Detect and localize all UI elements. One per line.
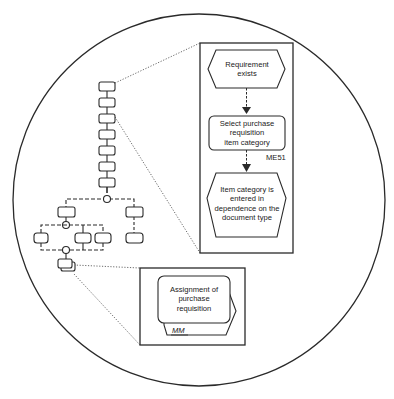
event2-line: document type [209, 213, 285, 222]
chain-node [99, 98, 115, 107]
transaction-code: ME51 [266, 153, 286, 162]
overview-chain [99, 82, 115, 193]
event2-label: Item category is entered in dependence o… [209, 185, 285, 223]
chain-node [99, 178, 115, 187]
process-line: purchase [160, 294, 228, 303]
function-line: Select purchase [209, 119, 285, 128]
event1-line: Requirement [216, 60, 278, 69]
process-label: Assignment of purchase requisition [160, 285, 228, 313]
diagram-canvas [0, 0, 394, 399]
function-label: Select purchase requisition item categor… [209, 119, 285, 147]
module-label: MM [172, 326, 185, 335]
event1-label: Requirement exists [216, 60, 278, 79]
chain-node [99, 146, 115, 155]
event2-line: entered in [209, 194, 285, 203]
overview-branches [34, 187, 143, 271]
event2-line: Item category is [209, 185, 285, 194]
event2-line: dependence on the [209, 204, 285, 213]
chain-node [99, 130, 115, 139]
process-line: Assignment of [160, 285, 228, 294]
chain-node [99, 82, 115, 91]
process-line: requisition [160, 304, 228, 313]
chain-node [99, 114, 115, 123]
event1-line: exists [216, 69, 278, 78]
function-line: item category [209, 138, 285, 147]
chain-node [99, 162, 115, 171]
function-line: requisition [209, 128, 285, 137]
